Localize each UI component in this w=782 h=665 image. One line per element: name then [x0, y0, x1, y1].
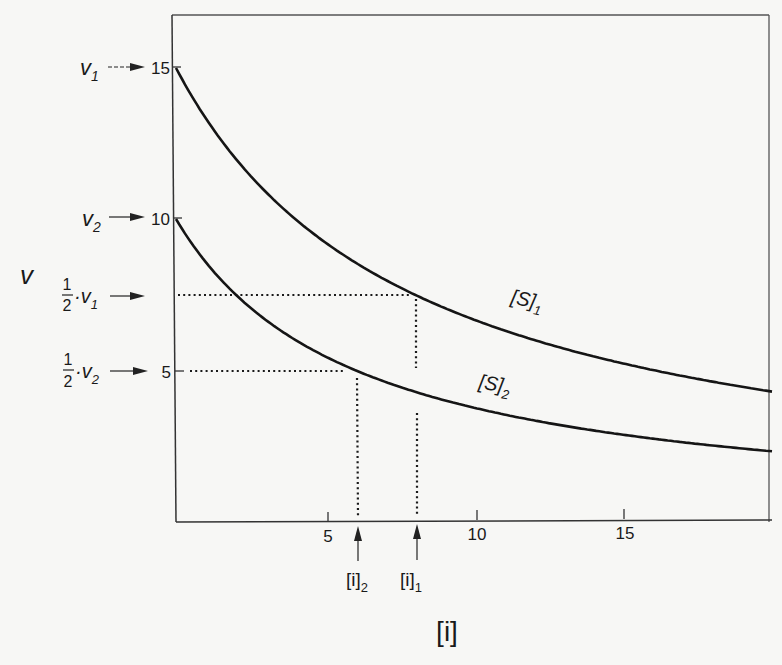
i2-arrowhead-icon [354, 526, 362, 541]
x-axis-line [176, 520, 772, 522]
y-ticks: 15 10 5 [151, 59, 184, 382]
x-axis-title: [i] [436, 616, 458, 647]
half-velocity-guides [178, 295, 417, 516]
y-tick-10: 10 [151, 210, 170, 229]
y-annotations: v1 v2 v 1 2 ·v1 1 2 ·v2 [20, 55, 148, 390]
half-v2-arrowhead-icon [133, 367, 148, 375]
svg-text:·v2: ·v2 [75, 360, 100, 387]
svg-text:·v1: ·v1 [74, 285, 98, 312]
y-tick-5: 5 [162, 363, 171, 382]
svg-text:2: 2 [63, 297, 72, 314]
chart-canvas: 5 10 15 15 10 5 [S]1 [S]2 v1 v2 v [0, 0, 782, 665]
curve-s2 [176, 219, 772, 451]
y-tick-15: 15 [151, 59, 170, 78]
i1-label: [i]1 [400, 569, 422, 595]
x-tick-10: 10 [468, 525, 487, 544]
y-axis-title: v [20, 260, 35, 290]
curve-s1 [176, 68, 772, 392]
y-axis-line [172, 15, 176, 522]
x-tick-15: 15 [616, 524, 635, 543]
i2-label: [i]2 [346, 569, 368, 595]
x-annotations: [i]2 [i]1 [i] [346, 524, 458, 647]
v2-arrowhead-icon [130, 213, 145, 221]
half-v1-arrowhead-icon [130, 292, 145, 300]
svg-text:1: 1 [63, 276, 72, 293]
v1-arrowhead-icon [130, 63, 145, 71]
i1-arrowhead-icon [413, 524, 421, 539]
i2-vertical-guide [357, 378, 358, 516]
half-v1-label: 1 2 ·v1 [62, 276, 98, 314]
curves [176, 68, 772, 451]
curve-label-s2: [S]2 [475, 370, 513, 402]
plot-frame [172, 15, 772, 522]
x-ticks: 5 10 15 [323, 509, 634, 546]
v2-label: v2 [82, 206, 101, 235]
svg-text:2: 2 [64, 373, 73, 390]
v1-label: v1 [80, 55, 99, 84]
x-tick-5: 5 [323, 527, 332, 546]
half-v2-label: 1 2 ·v2 [63, 351, 100, 390]
svg-text:1: 1 [64, 351, 73, 368]
curve-label-s1: [S]1 [507, 285, 545, 318]
